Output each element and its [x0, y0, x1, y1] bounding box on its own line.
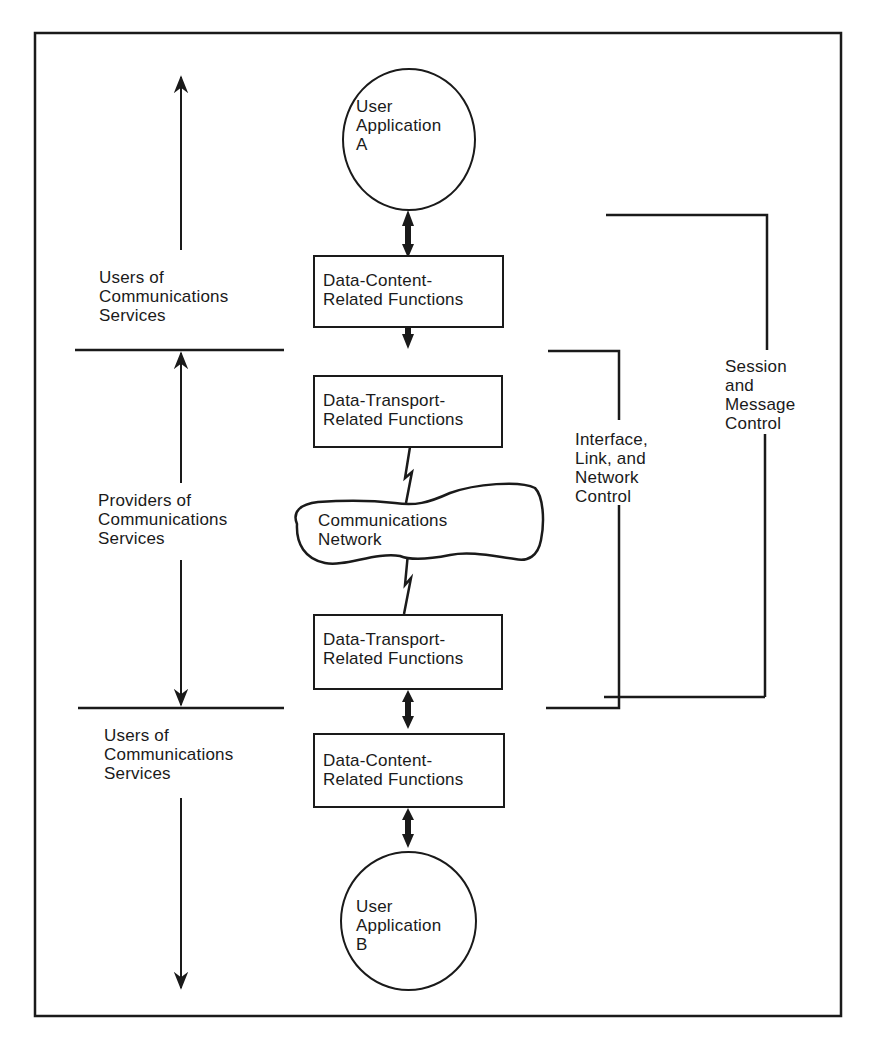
communications-network-label: Communications Network: [318, 511, 447, 549]
data-transport-bottom-label: Data-Transport- Related Functions: [323, 630, 463, 668]
data-content-bottom-label: Data-Content- Related Functions: [323, 751, 463, 789]
data-transport-functions-bottom: Data-Transport- Related Functions: [313, 614, 503, 690]
interface-link-network-control-label: Interface, Link, and Network Control: [575, 430, 648, 506]
user-application-b-label: User Application B: [356, 897, 441, 954]
data-content-functions-top: Data-Content- Related Functions: [313, 255, 504, 328]
data-content-top-label: Data-Content- Related Functions: [323, 271, 463, 309]
interface-link-network-bracket: [546, 351, 619, 708]
session-message-control-label: Session and Message Control: [725, 357, 795, 433]
user-application-a-label: User Application A: [356, 97, 441, 154]
data-transport-top-label: Data-Transport- Related Functions: [323, 391, 463, 429]
users-of-communications-services-top: Users of Communications Services: [99, 268, 228, 325]
data-content-functions-bottom: Data-Content- Related Functions: [313, 733, 505, 808]
data-transport-functions-top: Data-Transport- Related Functions: [313, 375, 503, 448]
users-of-communications-services-bottom: Users of Communications Services: [104, 726, 233, 783]
communications-layer-diagram: User Application A Data-Content- Related…: [0, 0, 875, 1038]
providers-of-communications-services: Providers of Communications Services: [98, 491, 227, 548]
user-application-a-node: User Application A: [342, 68, 476, 211]
user-application-b-node: User Application B: [340, 851, 477, 991]
